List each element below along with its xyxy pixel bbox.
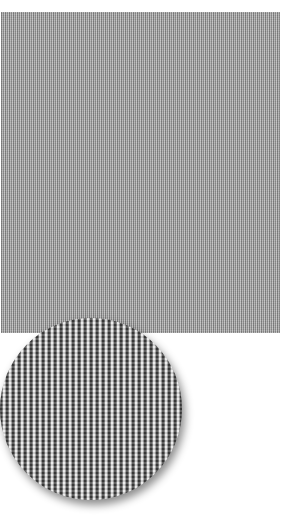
- fabric-swatch: [1, 12, 280, 333]
- fabric-zoom-detail: [0, 318, 182, 500]
